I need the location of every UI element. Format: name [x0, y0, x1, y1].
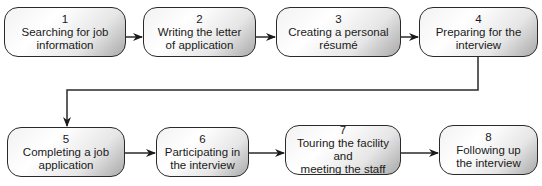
- step-8-box: 8 Following up the interview: [439, 125, 538, 175]
- step-5-box: 5 Completing a job application: [7, 127, 125, 177]
- step-label-line1: Following up: [456, 144, 521, 157]
- step-label-line2: of application: [166, 39, 234, 52]
- arrow-4-5: [67, 57, 478, 126]
- step-number: 2: [196, 13, 202, 26]
- step-2-box: 2 Writing the letter of application: [143, 7, 256, 57]
- step-label-line1: Completing a job: [23, 146, 109, 159]
- step-label-line1: Touring the facility and: [286, 137, 400, 163]
- step-number: 4: [475, 13, 481, 26]
- step-label-line2: interview: [456, 39, 501, 52]
- step-number: 5: [63, 133, 69, 146]
- step-label-line2: résumé: [319, 39, 357, 52]
- step-label-line1: Searching for job: [22, 26, 109, 39]
- step-number: 7: [340, 124, 346, 137]
- step-1-box: 1 Searching for job information: [4, 7, 126, 57]
- step-3-box: 3 Creating a personal résumé: [276, 7, 401, 57]
- step-number: 6: [199, 133, 205, 146]
- step-label-line2: information: [37, 39, 94, 52]
- step-label-line2: the interview: [170, 159, 235, 172]
- step-number: 3: [335, 13, 341, 26]
- step-number: 1: [62, 13, 68, 26]
- step-4-box: 4 Preparing for the interview: [419, 7, 538, 57]
- step-label-line2: meeting the staff: [301, 163, 386, 176]
- step-number: 8: [485, 131, 491, 144]
- step-label-line1: Creating a personal: [288, 26, 388, 39]
- step-label-line1: Preparing for the: [436, 26, 522, 39]
- step-7-box: 7 Touring the facility and meeting the s…: [285, 125, 401, 175]
- step-6-box: 6 Participating in the interview: [156, 127, 249, 177]
- step-label-line1: Writing the letter: [158, 26, 242, 39]
- step-label-line2: application: [39, 159, 94, 172]
- step-label-line2: the interview: [456, 157, 521, 170]
- step-label-line1: Participating in: [165, 146, 240, 159]
